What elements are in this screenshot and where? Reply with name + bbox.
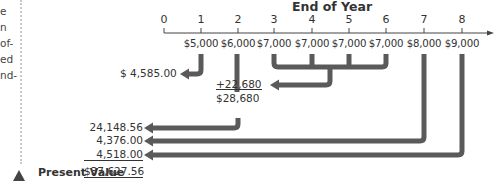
cash-flow: $9,000	[442, 38, 482, 49]
year-label: 1	[191, 13, 211, 26]
year-label: 5	[339, 13, 359, 26]
cash-flow: $6,000	[218, 38, 258, 49]
year-label: 8	[452, 13, 472, 26]
cash-flow: $5,000	[181, 38, 221, 49]
year-label: 4	[302, 13, 322, 26]
cash-flow: $7,000	[254, 38, 294, 49]
pv-year-7: 4,376.00	[84, 134, 143, 146]
pv-year-1: $ 4,585.00	[120, 67, 177, 79]
cash-flow: $7,000	[329, 38, 369, 49]
sum-underline	[216, 77, 262, 90]
pv-combined: 24,148.56	[84, 121, 143, 133]
cash-flow: $8,000	[404, 38, 444, 49]
year-label: 0	[154, 13, 174, 26]
cash-flow: $7,000	[366, 38, 406, 49]
pv-year-8: 4,518.00	[84, 148, 143, 161]
cash-flow: $7,000	[292, 38, 332, 49]
year-label: 3	[264, 13, 284, 26]
year-label: 7	[414, 13, 434, 26]
present-value-total: $37,627.56	[84, 165, 143, 178]
year-label: 6	[376, 13, 396, 26]
combined-value: $28,680	[216, 92, 259, 104]
year-label: 2	[228, 13, 248, 26]
